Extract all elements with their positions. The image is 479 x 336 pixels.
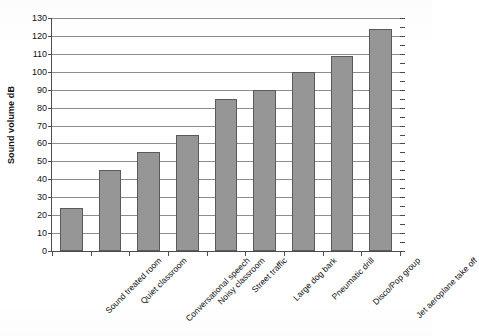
- right-tick-mark: [400, 81, 405, 82]
- bar-slot: [284, 18, 323, 251]
- x-tick-mark: [91, 251, 92, 256]
- plot-area: 1301201101009080706050403020100: [51, 18, 400, 252]
- right-tick-mark: [400, 108, 405, 109]
- right-tick-mark: [400, 170, 405, 171]
- y-tick-label: 60: [37, 139, 47, 148]
- right-tick-mark: [400, 206, 405, 207]
- bar[interactable]: [369, 29, 391, 251]
- bar[interactable]: [137, 152, 159, 251]
- bar[interactable]: [215, 99, 237, 251]
- right-tick-mark: [400, 135, 405, 136]
- right-tick-mark: [400, 72, 405, 73]
- right-tick-mark: [400, 179, 405, 180]
- x-tick-mark: [129, 251, 130, 256]
- right-tick-mark: [400, 224, 405, 225]
- right-tick-mark: [400, 143, 405, 144]
- y-tick-label: 130: [32, 14, 47, 23]
- bar[interactable]: [60, 208, 82, 251]
- y-tick-label: 40: [37, 175, 47, 184]
- right-tick-mark: [400, 90, 405, 91]
- x-tick-mark: [52, 251, 53, 256]
- bar-slot: [245, 18, 284, 251]
- right-tick-mark: [400, 233, 405, 234]
- y-tick-label: 0: [42, 247, 47, 256]
- right-tick-mark: [400, 36, 405, 37]
- bar-slot: [52, 18, 91, 251]
- y-tick-label: 30: [37, 193, 47, 202]
- bar[interactable]: [176, 135, 198, 252]
- right-tick-mark: [400, 18, 405, 19]
- right-tick-mark: [400, 54, 405, 55]
- x-tick-mark: [361, 251, 362, 256]
- right-tick-mark: [400, 215, 405, 216]
- y-tick-label: 100: [32, 67, 47, 76]
- y-tick-label: 10: [37, 229, 47, 238]
- x-axis-label: Quiet classroom: [139, 256, 188, 305]
- right-tick-mark: [400, 197, 405, 198]
- bar-slot: [129, 18, 168, 251]
- right-tick-mark: [400, 188, 405, 189]
- x-axis-label: Disco/Pop group: [371, 256, 421, 306]
- y-tick-label: 70: [37, 121, 47, 130]
- y-axis-title: Sound volume dB: [0, 0, 22, 250]
- x-tick-mark: [284, 251, 285, 256]
- y-tick-label: 110: [33, 49, 47, 58]
- right-tick-mark: [400, 63, 405, 64]
- right-tick-mark: [400, 27, 405, 28]
- x-tick-mark: [323, 251, 324, 256]
- right-tick-mark: [400, 99, 405, 100]
- bar[interactable]: [292, 72, 314, 251]
- bar[interactable]: [253, 90, 275, 251]
- x-tick-mark: [400, 251, 401, 256]
- x-tick-mark: [207, 251, 208, 256]
- bar-slot: [361, 18, 400, 251]
- bar-slot: [91, 18, 130, 251]
- right-tick-mark: [400, 126, 405, 127]
- y-tick-label: 20: [37, 211, 47, 220]
- y-tick-label: 120: [32, 31, 47, 40]
- y-tick-label: 50: [37, 157, 47, 166]
- x-axis-label: Jet aeroplane take off: [415, 256, 479, 320]
- x-tick-mark: [168, 251, 169, 256]
- bar-slot: [207, 18, 246, 251]
- y-tick-label: 80: [37, 103, 47, 112]
- y-tick-label: 90: [37, 85, 47, 94]
- bar[interactable]: [331, 56, 353, 251]
- right-tick-mark: [400, 45, 405, 46]
- right-tick-mark: [400, 117, 405, 118]
- right-tick-mark: [400, 242, 405, 243]
- y-axis-title-text: Sound volume dB: [6, 86, 16, 164]
- right-tick-mark: [400, 161, 405, 162]
- bar[interactable]: [99, 170, 121, 251]
- right-tick-mark: [400, 152, 405, 153]
- x-axis-label: Conversational speech: [185, 256, 252, 323]
- bar-slot: [323, 18, 362, 251]
- bar-slot: [168, 18, 207, 251]
